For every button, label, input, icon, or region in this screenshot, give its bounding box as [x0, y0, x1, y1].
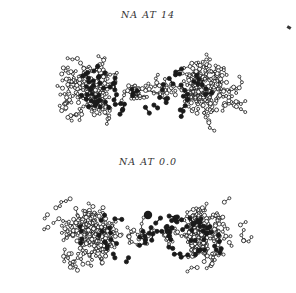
solid-molecule-icon	[113, 217, 124, 222]
hollow-molecule-icon	[221, 225, 228, 238]
hollow-molecule-icon	[237, 75, 243, 90]
large-ion-icon	[144, 211, 152, 219]
hollow-molecule-icon	[43, 213, 49, 220]
molecular-snapshot	[0, 0, 296, 146]
hollow-molecule-icon	[186, 266, 199, 273]
hollow-molecule-icon	[190, 61, 198, 65]
solid-molecule-icon	[152, 103, 160, 110]
hollow-molecule-icon	[66, 57, 79, 61]
panel-na-at-14: NA AT 14	[0, 0, 296, 146]
hollow-molecule-icon	[87, 202, 95, 209]
hollow-molecule-icon	[227, 240, 233, 247]
solid-molecule-icon	[111, 252, 117, 260]
molecular-snapshot	[0, 146, 296, 293]
hollow-molecule-icon	[173, 89, 177, 97]
hollow-molecule-icon	[222, 197, 231, 204]
hollow-molecule-icon	[43, 225, 50, 230]
hollow-molecule-icon	[52, 217, 61, 225]
hollow-molecule-icon	[154, 73, 159, 84]
hollow-molecule-icon	[126, 226, 133, 239]
solid-molecule-icon	[124, 256, 130, 264]
solid-molecule-icon	[112, 93, 119, 102]
hollow-molecule-icon	[86, 261, 93, 267]
solid-molecule-icon	[167, 245, 175, 251]
hollow-molecule-icon	[60, 197, 72, 204]
hollow-molecule-icon	[78, 112, 84, 121]
solid-molecule-icon	[167, 76, 175, 86]
hollow-molecule-icon	[54, 205, 62, 210]
hollow-molecule-icon	[186, 208, 196, 214]
solid-molecule-icon	[143, 105, 151, 115]
solid-molecule-icon	[172, 252, 182, 256]
hollow-molecule-icon	[238, 221, 247, 227]
hollow-molecule-icon	[207, 121, 216, 133]
hollow-molecule-icon	[80, 252, 85, 266]
hollow-molecule-icon	[56, 84, 65, 90]
hollow-molecule-icon	[242, 236, 253, 243]
solid-molecule-icon	[154, 216, 163, 225]
hollow-molecule-icon	[62, 248, 67, 258]
hollow-molecule-icon	[61, 77, 68, 82]
hollow-molecule-icon	[97, 55, 106, 63]
hollow-molecule-icon	[234, 105, 246, 114]
hollow-molecule-icon	[195, 107, 200, 115]
panel-na-at-0: NA AT 0.0	[0, 146, 296, 293]
hollow-molecule-icon	[74, 265, 79, 272]
solid-molecule-icon	[155, 229, 164, 233]
